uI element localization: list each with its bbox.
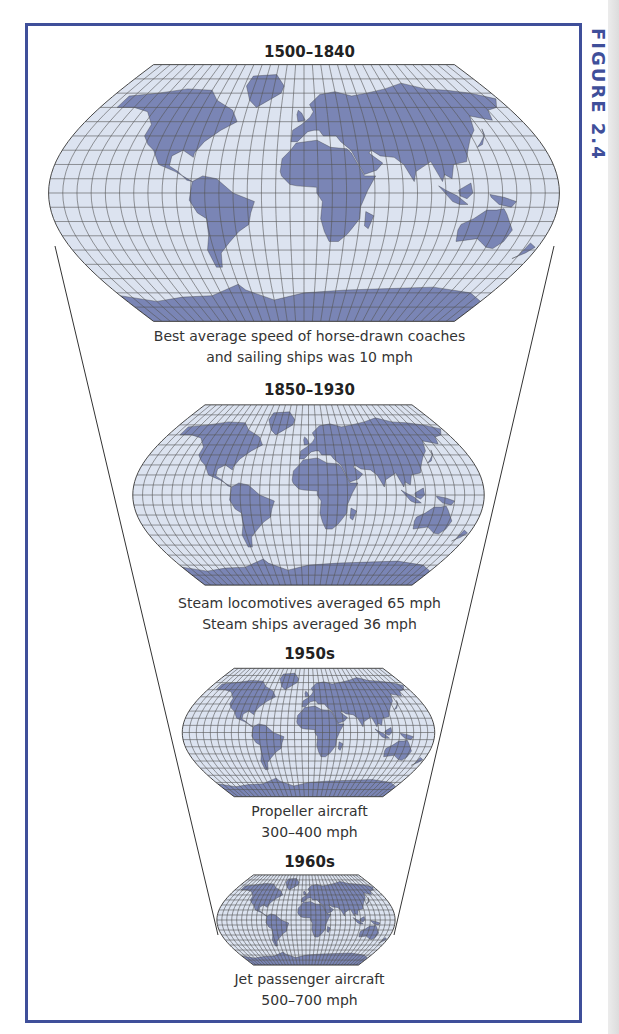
world-map-icon [216, 874, 396, 966]
era-1-world-map [46, 62, 562, 324]
era-3-caption-line-1: Propeller aircraft [0, 801, 619, 822]
world-map-icon [181, 667, 436, 798]
era-1-period: 1500–1840 [0, 43, 619, 61]
world-map-icon [46, 62, 562, 324]
era-2-caption: Steam locomotives averaged 65 mph Steam … [0, 593, 619, 635]
era-4-caption-line-1: Jet passenger aircraft [0, 969, 619, 990]
era-1-caption-line-2: and sailing ships was 10 mph [0, 347, 619, 368]
era-4-period: 1960s [0, 853, 619, 871]
era-1-caption-line-1: Best average speed of horse-drawn coache… [0, 326, 619, 347]
era-2-caption-line-2: Steam ships averaged 36 mph [0, 614, 619, 635]
era-2-period: 1850–1930 [0, 381, 619, 399]
era-2-caption-line-1: Steam locomotives averaged 65 mph [0, 593, 619, 614]
era-2-world-map [131, 403, 486, 587]
world-map-icon [131, 403, 486, 587]
era-1-caption: Best average speed of horse-drawn coache… [0, 326, 619, 368]
era-4-caption-line-2: 500–700 mph [0, 990, 619, 1011]
era-3-caption: Propeller aircraft 300–400 mph [0, 801, 619, 843]
era-4-caption: Jet passenger aircraft 500–700 mph [0, 969, 619, 1011]
era-3-caption-line-2: 300–400 mph [0, 822, 619, 843]
era-3-period: 1950s [0, 645, 619, 663]
era-3-world-map [181, 667, 436, 798]
era-4-world-map [216, 874, 396, 966]
